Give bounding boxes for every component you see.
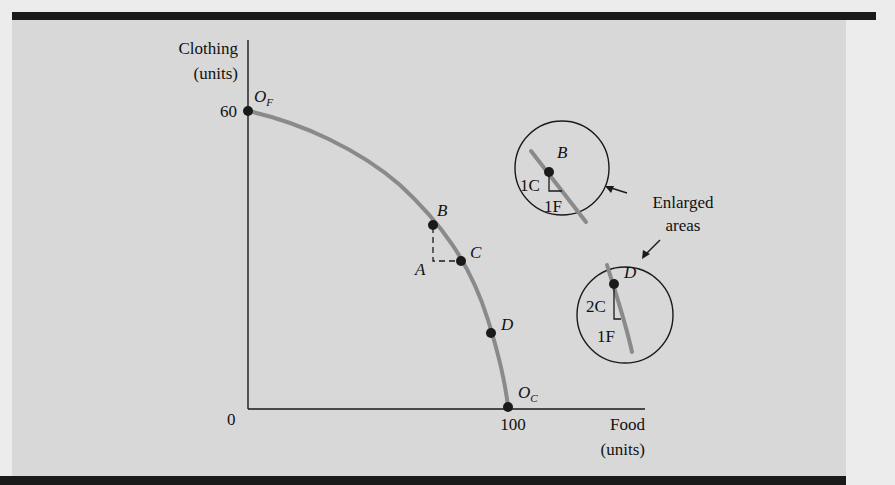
ppf-curve <box>248 111 508 407</box>
origin-label: 0 <box>227 410 236 429</box>
enlarged-d-vertical-label: 2C <box>586 297 606 316</box>
oc-label: OC <box>518 383 538 404</box>
enlarged-d-horizontal-label: 1F <box>597 327 615 346</box>
label-d: D <box>501 315 513 334</box>
x-axis-label-line1: Food <box>540 415 645 434</box>
x-axis-label-line2: (units) <box>540 440 645 459</box>
callout-line1: Enlarged <box>628 193 738 212</box>
point-b <box>428 220 438 230</box>
enlarged-area-b <box>515 121 609 222</box>
point-d <box>486 328 496 338</box>
point-oc <box>503 402 513 412</box>
ab-ac-dashed-lines <box>433 227 459 261</box>
enlarged-b-horizontal-label: 1F <box>544 197 562 216</box>
y-axis-tick-60: 60 <box>205 102 237 121</box>
enlarged-d-point-label: D <box>624 263 636 282</box>
ppf-diagram <box>0 0 895 485</box>
enlarged-b-vertical-label: 1C <box>520 176 540 195</box>
enlarged-b-point-label: B <box>557 143 567 162</box>
of-label: OF <box>254 87 273 108</box>
point-of <box>243 106 253 116</box>
label-c: C <box>470 243 481 262</box>
y-axis-label-line2: (units) <box>150 64 238 83</box>
point-c <box>456 256 466 266</box>
label-a: A <box>415 260 425 279</box>
y-axis-label-line1: Clothing <box>150 39 238 58</box>
callout-line2: areas <box>628 216 738 235</box>
label-b: B <box>437 201 447 220</box>
x-axis-tick-100: 100 <box>495 415 531 434</box>
